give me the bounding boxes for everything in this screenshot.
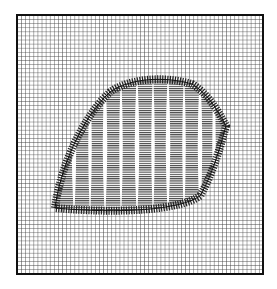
grid-figure <box>0 0 277 289</box>
